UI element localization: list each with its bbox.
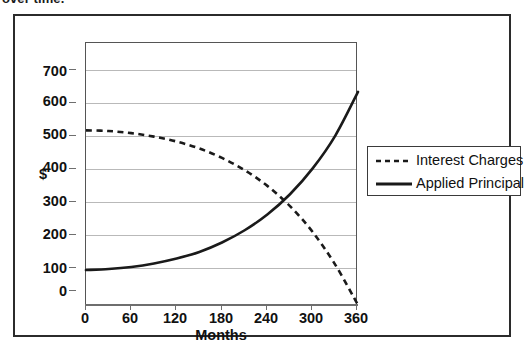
legend-label: Applied Principal <box>416 176 524 191</box>
x-axis-title: Months <box>15 328 427 343</box>
plot-area <box>85 42 357 304</box>
y-axis-title: $ <box>39 167 47 182</box>
series-plot <box>86 43 358 305</box>
y-tick-label: 700 <box>21 64 67 79</box>
caption-clip: over time. <box>0 0 200 9</box>
x-tick-label: 60 <box>105 311 155 326</box>
y-tick-mark <box>69 168 76 169</box>
caption-text: over time. <box>2 0 64 6</box>
y-tick-label: 300 <box>21 194 67 209</box>
y-tick-mark <box>69 267 76 268</box>
legend-label: Interest Charges <box>416 153 523 168</box>
x-tick-label: 0 <box>60 311 110 326</box>
legend-item-applied-principal[interactable]: Applied Principal <box>368 171 520 196</box>
y-tick-mark <box>69 69 76 70</box>
legend-swatch-dashed-icon <box>374 155 414 167</box>
x-tick-label: 240 <box>241 311 291 326</box>
x-tick-label: 300 <box>286 311 336 326</box>
y-tick-mark <box>69 201 76 202</box>
y-tick-label: 600 <box>21 94 67 109</box>
series-line-applied-principal <box>86 92 358 270</box>
plot-inner <box>86 43 356 304</box>
legend-swatch-solid-icon <box>374 178 414 190</box>
y-tick-mark <box>69 234 76 235</box>
legend-item-interest-charges[interactable]: Interest Charges <box>368 148 520 173</box>
y-tick-label: 100 <box>21 261 67 276</box>
figure-frame: 700 600 500 400 300 200 100 0 $ <box>13 14 511 337</box>
y-tick-mark <box>69 135 76 136</box>
y-tick-mark <box>69 102 76 103</box>
y-tick-label: 0 <box>21 284 67 299</box>
y-tick-label: 500 <box>21 127 67 142</box>
x-tick-label: 360 <box>331 311 381 326</box>
y-tick-mark <box>69 290 76 291</box>
x-tick-label: 120 <box>150 311 200 326</box>
x-tick-label: 180 <box>196 311 246 326</box>
y-tick-label: 200 <box>21 227 67 242</box>
series-line-interest-charges <box>86 130 358 305</box>
chart-legend: Interest Charges Applied Principal <box>367 146 521 196</box>
